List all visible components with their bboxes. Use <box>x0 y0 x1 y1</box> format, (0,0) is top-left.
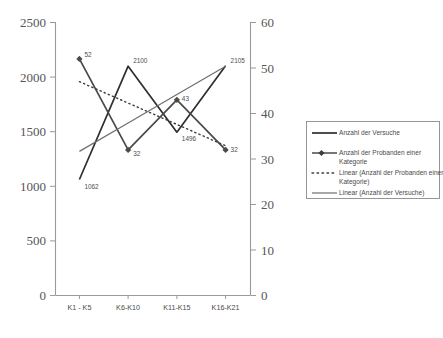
data-label-s1-p3: 32 <box>231 146 239 153</box>
right-tick-50: 50 <box>261 61 274 76</box>
right-tick-0: 0 <box>261 288 268 303</box>
data-label-s0-p3: 2105 <box>231 57 246 64</box>
chart-legend: Anzahl der Versuche Anzahl der Probanden… <box>307 122 443 199</box>
right-tick-60: 60 <box>261 15 274 30</box>
data-label-s0-p1: 2100 <box>133 57 148 64</box>
left-tick-500: 500 <box>27 233 47 248</box>
legend-label-1-line2: Kategorie <box>339 158 368 166</box>
plot-frame <box>56 22 251 296</box>
right-tick-20: 20 <box>261 197 274 212</box>
left-axis: 2500 2000 1500 1000 500 0 <box>20 15 56 303</box>
legend-label-1: Anzahl der Probanden einer <box>339 149 422 156</box>
left-tick-2000: 2000 <box>20 70 46 85</box>
left-tick-2500: 2500 <box>20 15 46 30</box>
right-axis: 60 50 40 30 20 10 0 <box>251 15 275 303</box>
legend-label-2: Linear (Anzahl der Probanden einer <box>339 169 443 177</box>
right-tick-10: 10 <box>261 243 274 258</box>
series-line-0 <box>79 66 225 180</box>
data-label-s1-p0: 52 <box>84 51 92 58</box>
left-tick-0: 0 <box>40 288 47 303</box>
chart-container: 2500 2000 1500 1000 500 0 60 50 40 30 20… <box>0 0 443 338</box>
x-category-3: K16-K21 <box>212 303 240 312</box>
series-layer <box>76 56 228 180</box>
data-label-s1-p2: 43 <box>182 95 190 102</box>
series-line-2 <box>79 82 225 146</box>
left-tick-1000: 1000 <box>20 179 46 194</box>
legend-label-0: Anzahl der Versuche <box>339 129 400 136</box>
chart-svg: 2500 2000 1500 1000 500 0 60 50 40 30 20… <box>0 0 443 338</box>
data-label-s0-p0: 1062 <box>84 183 99 190</box>
data-label-s0-p2: 1496 <box>182 135 197 142</box>
right-tick-40: 40 <box>261 106 274 121</box>
right-tick-30: 30 <box>261 152 274 167</box>
x-category-0: K1 - K5 <box>67 303 91 312</box>
series-1-marker-0 <box>76 56 82 62</box>
legend-label-2-line2: Kategorie) <box>339 178 369 186</box>
left-tick-1500: 1500 <box>20 124 46 139</box>
x-category-2: K11-K15 <box>163 303 190 312</box>
legend-label-3: Linear (Anzahl der Versuche) <box>339 189 424 197</box>
series-line-3 <box>79 66 225 151</box>
x-axis: K1 - K5 K6-K10 K11-K15 K16-K21 <box>67 296 239 313</box>
data-label-s1-p1: 32 <box>133 150 141 157</box>
x-category-1: K6-K10 <box>116 303 140 312</box>
